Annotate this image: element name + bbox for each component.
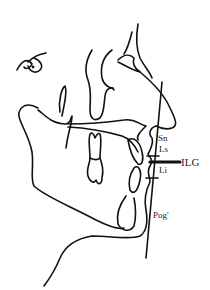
label-sn: Sn — [158, 134, 168, 143]
label-pog: Pog' — [153, 211, 169, 220]
label-li: Li — [159, 166, 167, 175]
ear-outline — [59, 86, 66, 116]
cephalometric-tracing — [0, 0, 210, 290]
label-ilg: ILG — [181, 157, 199, 168]
orbit-outline — [17, 53, 46, 72]
nasal-structures — [86, 24, 152, 120]
molar-tooth — [87, 133, 102, 183]
palatal-plane — [68, 120, 146, 152]
label-ls: Ls — [159, 145, 168, 154]
incisor-teeth — [117, 139, 142, 231]
